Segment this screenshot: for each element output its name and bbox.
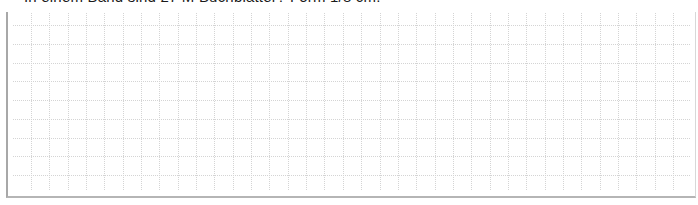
grid-horizontal-lines <box>13 26 690 176</box>
grid-vertical-lines <box>32 13 674 191</box>
grid-paper <box>0 0 698 205</box>
